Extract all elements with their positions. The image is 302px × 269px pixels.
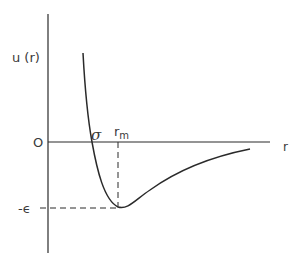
x-axis-label: r: [283, 140, 288, 154]
potential-diagram: u (r) r O σ rm -ϵ: [0, 0, 302, 269]
sigma-label: σ: [91, 126, 102, 144]
epsilon-label: -ϵ: [18, 201, 31, 216]
y-axis-label: u (r): [12, 50, 40, 65]
potential-curve: [83, 53, 250, 208]
zero-label: O: [33, 135, 43, 150]
rm-label-subscript: m: [119, 130, 129, 141]
rm-label: rm: [114, 124, 129, 141]
